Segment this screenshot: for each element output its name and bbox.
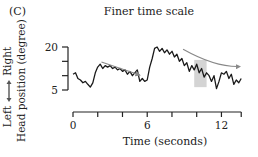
x-axis-label: Time (seconds) bbox=[85, 135, 245, 148]
y-tick-label: 20 bbox=[38, 41, 58, 53]
data-series-line bbox=[73, 47, 241, 89]
line-chart bbox=[0, 0, 258, 157]
x-tick-label: 0 bbox=[70, 119, 77, 131]
y-tick-label: 5 bbox=[38, 84, 58, 96]
trend-arrow-icon bbox=[183, 49, 240, 66]
x-tick-label: 6 bbox=[144, 119, 151, 131]
trend-arrow-icon bbox=[101, 62, 139, 75]
x-tick-label: 12 bbox=[215, 119, 228, 131]
highlight-region bbox=[194, 60, 206, 87]
